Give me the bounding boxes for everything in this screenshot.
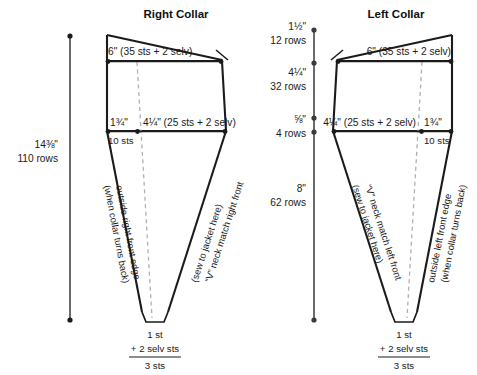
middle-scale-seg3-inches: 8" [297, 183, 307, 194]
middle-scale-seg0-rows: 12 rows [270, 35, 306, 46]
left-collar-fold-line [407, 62, 422, 318]
left-collar-inner-width-label: 1¾" [424, 117, 442, 128]
middle-scale-seg0-inches: 1½" [288, 21, 306, 32]
right-collar-bottom-total: 3 sts [145, 360, 165, 371]
right-collar-fold-line [137, 62, 152, 318]
right-collar-top-width-label: 6" (35 sts + 2 selv) [108, 46, 192, 57]
middle-scale-seg3-rows: 62 rows [270, 197, 306, 208]
middle-segment-scale [311, 27, 316, 322]
left-collar-bottom-line2: + 2 selv sts [380, 343, 428, 354]
left-collar-outer-width-label: 4¼" (25 sts + 2 selv) [323, 117, 416, 128]
right-collar-bottom-line2: + 2 selv sts [131, 343, 179, 354]
right-collar-lower-dimension [106, 129, 228, 134]
left-collar-bottom-line1: 1 st [396, 329, 412, 340]
left-collar-bottom-total: 3 sts [394, 360, 414, 371]
right-collar-inner-width-label: 1¾" [110, 117, 128, 128]
left-total-scale [67, 33, 72, 322]
right-collar-outer-width-label: 4¼" (25 sts + 2 selv) [143, 117, 236, 128]
left-collar-point-notch [391, 312, 417, 322]
left-collar-title: Left Collar [368, 8, 425, 20]
right-collar-bottom-line1: 1 st [147, 329, 163, 340]
right-collar-top-dimension [106, 59, 224, 64]
left-collar-inner-sts-label: 10 sts [424, 135, 450, 146]
middle-scale-seg1-rows: 32 rows [270, 81, 306, 92]
left-collar-top-width-label: 6" (35 sts + 2 selv) [367, 46, 451, 57]
left-scale-inches: 14⅜" [35, 139, 59, 150]
middle-scale-seg2-rows: 4 rows [276, 128, 306, 139]
collar-schematic-svg: 14⅜" 110 rows Right Collar 6" (35 sts + … [0, 0, 477, 375]
left-collar-top-dimension [336, 59, 454, 64]
schematic-page: 14⅜" 110 rows Right Collar 6" (35 sts + … [0, 0, 477, 375]
middle-scale-seg1-inches: 4¼" [288, 67, 306, 78]
right-collar-point-notch [142, 312, 168, 322]
left-scale-rows: 110 rows [17, 153, 58, 164]
right-collar-inner-sts-label: 10 sts [108, 135, 134, 146]
left-collar-lower-dimension [332, 129, 454, 134]
right-collar-title: Right Collar [143, 8, 209, 20]
middle-scale-seg2-inches: ⅝" [294, 114, 306, 125]
